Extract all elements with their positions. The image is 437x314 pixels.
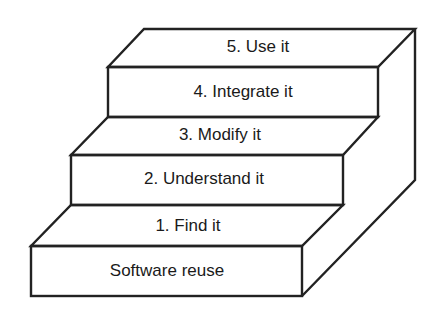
step-1-label: 1. Find it (155, 216, 220, 236)
base-label: Software reuse (110, 261, 224, 281)
step-2-label: 2. Understand it (144, 169, 264, 189)
step-4-label: 4. Integrate it (193, 82, 292, 102)
step-3-label: 3. Modify it (179, 125, 261, 145)
side-face (302, 29, 415, 296)
step-5-label: 5. Use it (227, 37, 289, 57)
